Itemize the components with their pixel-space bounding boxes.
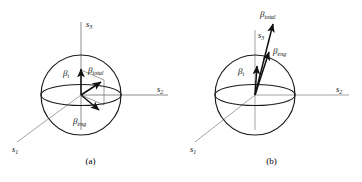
axis-label-s3: s3	[258, 30, 264, 41]
vector-label-beta-total: βtotal	[87, 65, 104, 76]
panel-b-drawing: s3 s2 s1 βtotal βeng βt	[181, 0, 362, 182]
vector-label-beta-eng: βeng	[72, 116, 86, 127]
panel-a-caption: (a)	[0, 156, 181, 166]
axis-label-s3: s3	[86, 19, 92, 30]
vector-label-beta-total: βtotal	[259, 9, 276, 20]
panel-b: s3 s2 s1 βtotal βeng βt (b)	[181, 0, 362, 182]
axis-label-s1: s1	[12, 144, 18, 155]
vector-beta-total	[81, 82, 101, 95]
axis-label-s1: s1	[190, 144, 196, 155]
vector-label-beta-eng: βeng	[272, 46, 286, 57]
vector-beta-eng	[81, 95, 99, 110]
panel-b-caption: (b)	[181, 156, 362, 166]
panel-a: s3 s2 s1 βt βtotal βeng (a)	[0, 0, 181, 182]
construction-line-bottom	[81, 95, 104, 105]
figure-root: s3 s2 s1 βt βtotal βeng (a)	[0, 0, 362, 182]
axis-label-s2: s2	[157, 84, 163, 95]
axis-label-s2: s2	[336, 84, 342, 95]
panel-a-drawing: s3 s2 s1 βt βtotal βeng	[0, 0, 181, 182]
vector-label-beta-t: βt	[62, 68, 69, 79]
vector-label-beta-t: βt	[237, 66, 244, 77]
